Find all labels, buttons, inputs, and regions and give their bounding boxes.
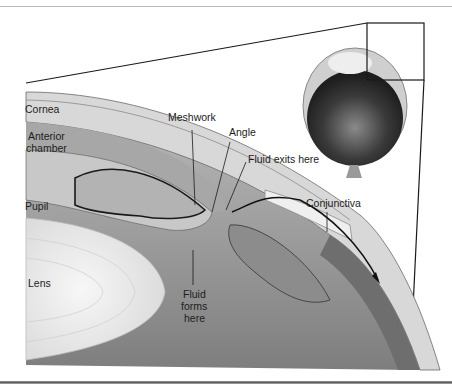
- label-lens: Lens: [28, 277, 51, 289]
- label-anterior-chamber-1: Anterior: [28, 130, 65, 142]
- label-conjunctiva: Conjunctiva: [306, 197, 361, 209]
- eyeball-inset: [303, 23, 424, 178]
- label-cornea: Cornea: [25, 103, 59, 115]
- label-fluid-forms-3: here: [184, 312, 205, 324]
- label-pupil: Pupil: [25, 200, 48, 212]
- label-anterior-chamber-2: chamber: [26, 142, 67, 154]
- bottom-rule: [0, 381, 452, 384]
- label-fluid-exits: Fluid exits here: [248, 153, 319, 165]
- label-fluid-forms-1: Fluid: [183, 288, 206, 300]
- label-fluid-forms-2: forms: [181, 300, 207, 312]
- label-meshwork: Meshwork: [168, 111, 216, 123]
- eye-anatomy-diagram: [0, 0, 452, 390]
- label-angle: Angle: [229, 126, 256, 138]
